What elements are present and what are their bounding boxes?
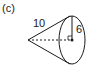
- base-center-point: [71, 39, 74, 42]
- part-label: (c): [2, 3, 15, 14]
- cone-slant-bottom: [28, 40, 70, 64]
- radius-label: 6: [76, 24, 82, 35]
- slant-height-label: 10: [33, 18, 45, 29]
